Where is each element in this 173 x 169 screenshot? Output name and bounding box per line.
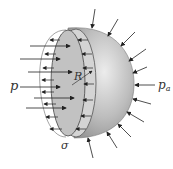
stress-label: σ (61, 139, 69, 152)
hemisphere-pressure-diagram: p pa R σ (0, 0, 173, 169)
inner-pressure-label: p (10, 78, 19, 93)
outer-pressure-label: pa (158, 78, 171, 93)
radius-label: R (73, 70, 82, 83)
